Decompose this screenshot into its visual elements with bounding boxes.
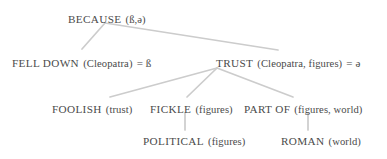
node-roman[interactable]: ROMAN (world) (281, 132, 361, 148)
node-fickle[interactable]: FICKLE (figures) (150, 100, 233, 116)
node-foolish-predicate: FOOLISH (52, 103, 102, 115)
node-part-of-arguments: (figures, world) (294, 104, 362, 115)
node-political-arguments: (figures) (208, 136, 245, 147)
node-trust-predicate: TRUST (216, 57, 253, 69)
node-because-predicate: BECAUSE (68, 13, 121, 25)
node-part-of-predicate: PART OF (244, 103, 290, 115)
node-trust-equals: = ə (346, 57, 360, 69)
node-fell-down[interactable]: FELL DOWN (Cleopatra) = ß (12, 54, 151, 70)
node-trust[interactable]: TRUST (Cleopatra, figures) = ə (216, 54, 361, 70)
edge-because-trust (105, 23, 278, 50)
node-roman-arguments: (world) (329, 136, 361, 147)
node-political[interactable]: POLITICAL (figures) (143, 132, 245, 148)
edge-trust-part-of (217, 68, 293, 97)
node-fell-down-predicate: FELL DOWN (12, 57, 79, 69)
node-fell-down-arguments: (Cleopatra) (83, 58, 132, 69)
edge-trust-foolish (110, 68, 217, 97)
node-because[interactable]: BECAUSE (ß,ə) (68, 10, 146, 26)
node-fickle-predicate: FICKLE (150, 103, 191, 115)
node-fickle-arguments: (figures) (195, 104, 232, 115)
node-trust-arguments: (Cleopatra, figures) (257, 58, 342, 69)
node-fell-down-equals: = ß (137, 57, 152, 69)
node-part-of[interactable]: PART OF (figures, world) (244, 100, 362, 116)
edge-trust-fickle (187, 68, 217, 97)
node-foolish[interactable]: FOOLISH (trust) (52, 100, 132, 116)
node-roman-predicate: ROMAN (281, 135, 324, 147)
node-because-arguments: (ß,ə) (126, 14, 146, 25)
semantic-network-diagram: BECAUSE (ß,ə) FELL DOWN (Cleopatra) = ß … (0, 0, 387, 159)
node-foolish-arguments: (trust) (106, 104, 133, 115)
node-political-predicate: POLITICAL (143, 135, 204, 147)
edge-because-fell-down (82, 23, 105, 49)
